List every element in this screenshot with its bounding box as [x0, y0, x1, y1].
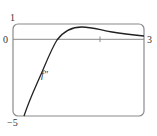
- viewing-window-frame: [13, 24, 144, 116]
- y-min-label: −5: [7, 118, 18, 128]
- y-max-label: 1: [10, 13, 15, 23]
- x-max-label: 3: [147, 35, 152, 45]
- graph-plot: [0, 0, 157, 136]
- curve-label: f″: [41, 70, 48, 80]
- y-zero-label: 0: [3, 35, 8, 45]
